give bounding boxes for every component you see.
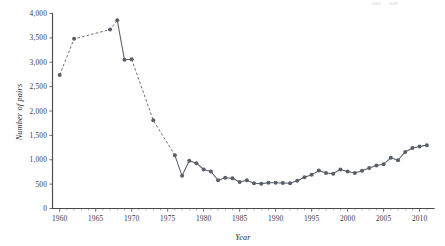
data-point: [252, 181, 256, 185]
data-point: [389, 156, 393, 160]
y-axis-title: Number of pairs: [15, 84, 24, 142]
series-segment-dashed: [132, 59, 175, 155]
data-point: [274, 181, 278, 185]
data-point: [151, 118, 155, 122]
data-point: [403, 150, 407, 154]
x-tick-label: 2005: [376, 214, 392, 223]
data-point: [396, 158, 400, 162]
x-tick-label: 1975: [160, 214, 176, 223]
data-point: [410, 146, 414, 150]
data-point: [108, 28, 112, 32]
data-point: [238, 180, 242, 184]
x-tick-label: 1970: [124, 214, 140, 223]
data-point: [418, 145, 422, 149]
data-series-line: [60, 20, 427, 183]
x-tick-label: 1960: [52, 214, 68, 223]
data-point: [288, 181, 292, 185]
data-point: [374, 164, 378, 168]
data-point: [295, 179, 299, 183]
data-point: [245, 178, 249, 182]
data-point: [259, 182, 263, 186]
data-point: [58, 73, 62, 77]
y-tick-label: 0: [43, 204, 47, 213]
data-point: [317, 168, 321, 172]
x-tick-label: 1995: [304, 214, 320, 223]
y-tick-label: 3,500: [30, 33, 48, 42]
x-tick-label: 1990: [268, 214, 284, 223]
data-point: [173, 153, 177, 157]
x-tick-label: 1965: [88, 214, 104, 223]
data-point: [338, 168, 342, 172]
chart-figure: 05001,0001,5002,0002,5003,0003,5004,000 …: [0, 0, 445, 246]
data-point: [353, 171, 357, 175]
data-point: [180, 174, 184, 178]
x-tick-label: 2010: [412, 214, 428, 223]
data-point: [223, 176, 227, 180]
series-segment-solid: [175, 145, 427, 184]
data-point: [194, 161, 198, 165]
data-point: [266, 181, 270, 185]
x-tick-label: 2000: [340, 214, 356, 223]
data-series-markers: [58, 18, 429, 185]
y-tick-label: 1,500: [30, 131, 48, 140]
data-point: [367, 166, 371, 170]
data-point: [310, 173, 314, 177]
y-tick-label: 2,000: [30, 107, 48, 116]
y-tick-label: 500: [35, 180, 47, 189]
data-point: [130, 57, 134, 61]
data-point: [72, 37, 76, 41]
x-tick-label: 1980: [196, 214, 212, 223]
data-point: [302, 175, 306, 179]
line-chart: 05001,0001,5002,0002,5003,0003,5004,000 …: [0, 0, 445, 246]
y-tick-label: 4,000: [30, 9, 48, 18]
data-point: [331, 172, 335, 176]
data-point: [425, 143, 429, 147]
series-segment-solid: [117, 20, 131, 59]
data-point: [346, 169, 350, 173]
data-point: [324, 171, 328, 175]
y-axis-tick-labels: 05001,0001,5002,0002,5003,0003,5004,000: [30, 9, 48, 213]
y-tick-label: 1,000: [30, 155, 48, 164]
x-tick-label: 1985: [232, 214, 248, 223]
data-point: [115, 18, 119, 22]
data-point: [281, 181, 285, 185]
data-point: [209, 169, 213, 173]
data-point: [382, 162, 386, 166]
data-point: [360, 169, 364, 173]
data-point: [187, 159, 191, 163]
y-tick-label: 2,500: [30, 82, 48, 91]
x-axis-tick-labels: 1960196519701975198019851990199520002005…: [52, 214, 427, 223]
data-point: [230, 176, 234, 180]
data-point: [216, 178, 220, 182]
scan-artifact: [372, 2, 398, 5]
data-point: [202, 168, 206, 172]
y-tick-label: 3,000: [30, 58, 48, 67]
data-point: [122, 58, 126, 62]
x-axis-title: Year: [235, 233, 251, 242]
